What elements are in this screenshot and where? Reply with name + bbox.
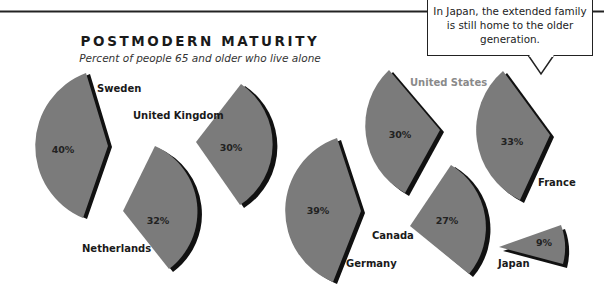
chart-subtitle: Percent of people 65 and older who live … [0,52,400,64]
label-netherlands: Netherlands [82,243,151,254]
label-france: France [538,177,576,188]
pct-united-kingdom: 30% [220,142,243,153]
chart-title: POSTMODERN MATURITY [0,33,400,49]
pct-netherlands: 32% [147,215,170,226]
pct-france: 33% [501,136,524,147]
label-sweden: Sweden [97,83,141,94]
pct-germany: 39% [307,205,330,216]
label-united-states: United States [410,77,487,88]
pct-united-states: 30% [389,129,412,140]
label-canada: Canada [372,230,414,241]
label-germany: Germany [346,258,397,269]
pct-canada: 27% [436,215,459,226]
label-united-kingdom: United Kingdom [133,110,224,121]
pct-sweden: 40% [52,144,75,155]
callout-box: In Japan, the extended family is still h… [427,0,593,56]
pct-japan: 9% [536,237,552,248]
label-japan: Japan [498,258,530,269]
callout-pointer-mask [528,54,556,58]
